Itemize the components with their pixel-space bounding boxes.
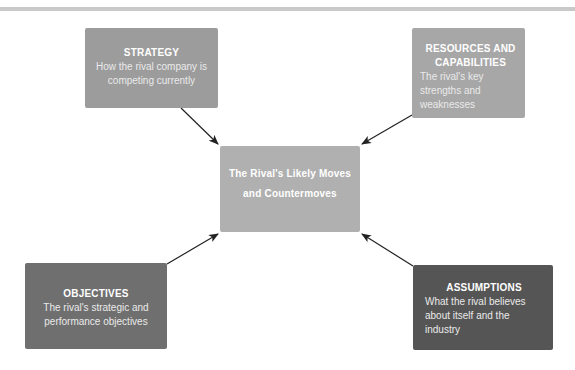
node-center-rival-moves: The Rival's Likely Moves and Countermove…: [220, 146, 360, 232]
node-assumptions: ASSUMPTIONS What the rival believes abou…: [413, 265, 553, 350]
node-title: STRATEGY: [91, 46, 212, 60]
node-strategy: STRATEGY How the rival company is compet…: [85, 28, 218, 108]
arrow-assumptions-to-center: [362, 234, 413, 266]
node-resources-and-capabilities: RESOURCES AND CAPABILITIES The rival's k…: [412, 28, 525, 118]
arrow-resources-to-center: [362, 115, 412, 144]
node-description: What the rival believes about itself and…: [425, 295, 543, 337]
node-description: How the rival company is competing curre…: [91, 60, 212, 88]
node-objectives: OBJECTIVES The rival's strategic and per…: [25, 263, 167, 349]
center-title: The Rival's Likely Moves and Countermove…: [226, 164, 354, 204]
node-title: RESOURCES AND CAPABILITIES: [420, 42, 521, 70]
node-title: ASSUMPTIONS: [425, 281, 543, 295]
arrow-objectives-to-center: [167, 234, 218, 264]
arrow-strategy-to-center: [181, 108, 218, 144]
node-description: The rival's key strengths and weaknesses: [420, 70, 521, 112]
node-title: OBJECTIVES: [31, 287, 161, 301]
node-description: The rival's strategic and performance ob…: [31, 301, 161, 329]
